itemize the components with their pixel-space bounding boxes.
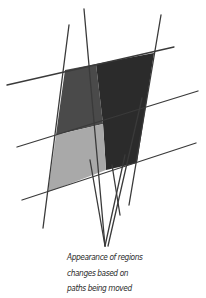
caption-line-3: paths being moved [67, 281, 142, 297]
caption-line-2: changes based on [67, 266, 142, 282]
caption: Appearance of regions changes based on p… [67, 250, 142, 297]
caption-line-1: Appearance of regions [67, 250, 142, 266]
